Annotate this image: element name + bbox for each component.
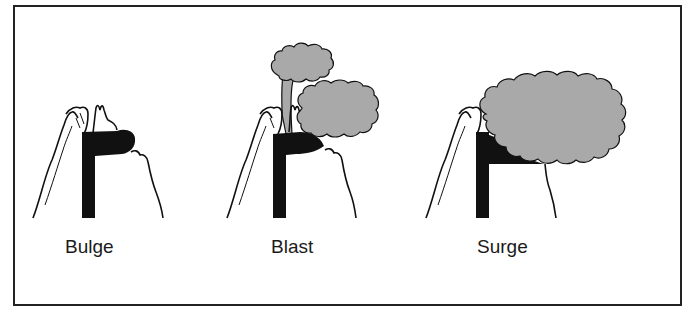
volcano-surge-illustration <box>0 0 697 318</box>
panel-surge: Surge <box>0 0 697 318</box>
label-surge: Surge <box>477 236 528 258</box>
